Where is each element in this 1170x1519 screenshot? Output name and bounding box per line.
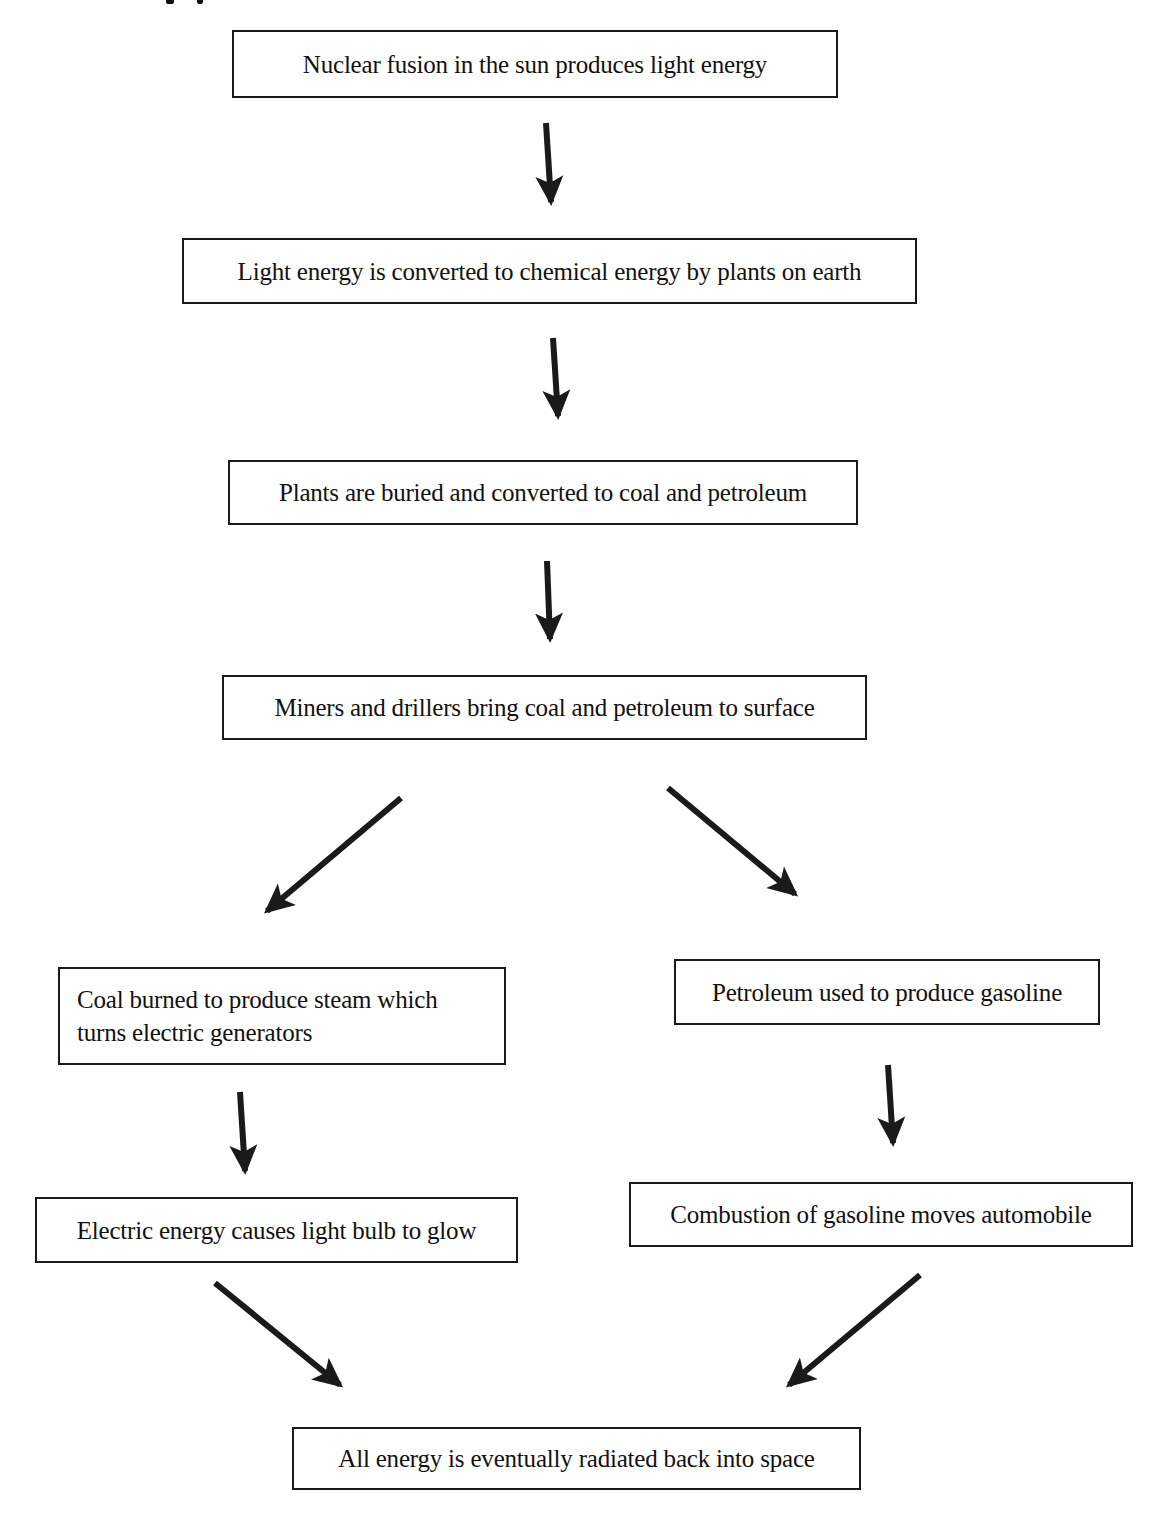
clipped-heading-fragment — [166, 0, 174, 4]
flow-arrows — [0, 0, 1170, 1519]
arrow-n6b-n7 — [789, 1275, 920, 1385]
node-automobile: Combustion of gasoline moves automobile — [629, 1182, 1133, 1247]
node-label: Miners and drillers bring coal and petro… — [274, 691, 814, 724]
arrow-n1-n2 — [546, 123, 551, 202]
arrow-n5b-n6b — [888, 1065, 893, 1143]
clipped-heading-fragment — [197, 0, 203, 4]
arrow-n6a-n7 — [215, 1283, 340, 1385]
node-label: Electric energy causes light bulb to glo… — [77, 1214, 477, 1247]
node-light-bulb: Electric energy causes light bulb to glo… — [35, 1197, 518, 1263]
node-label: Plants are buried and converted to coal … — [279, 476, 807, 509]
node-miners-drillers: Miners and drillers bring coal and petro… — [222, 675, 867, 740]
node-light-to-chemical: Light energy is converted to chemical en… — [182, 238, 917, 304]
node-coal-burned: Coal burned to produce steam which turns… — [58, 967, 506, 1065]
node-label: Petroleum used to produce gasoline — [712, 976, 1062, 1009]
node-plants-buried: Plants are buried and converted to coal … — [228, 460, 858, 525]
arrow-n4-n5b — [668, 788, 795, 894]
node-label: Nuclear fusion in the sun produces light… — [303, 48, 767, 81]
node-label: Combustion of gasoline moves automobile — [670, 1198, 1091, 1231]
node-label: Light energy is converted to chemical en… — [238, 255, 862, 288]
arrow-n2-n3 — [553, 338, 558, 416]
arrow-n5a-n6a — [240, 1092, 245, 1171]
node-label: All energy is eventually radiated back i… — [338, 1442, 814, 1475]
arrow-n3-n4 — [547, 561, 550, 639]
node-label: Coal burned to produce steam which turns… — [77, 983, 484, 1049]
node-petroleum-gasoline: Petroleum used to produce gasoline — [674, 959, 1100, 1025]
arrow-n4-n5a — [267, 798, 401, 911]
node-radiated-to-space: All energy is eventually radiated back i… — [292, 1427, 861, 1490]
node-nuclear-fusion: Nuclear fusion in the sun produces light… — [232, 30, 838, 98]
